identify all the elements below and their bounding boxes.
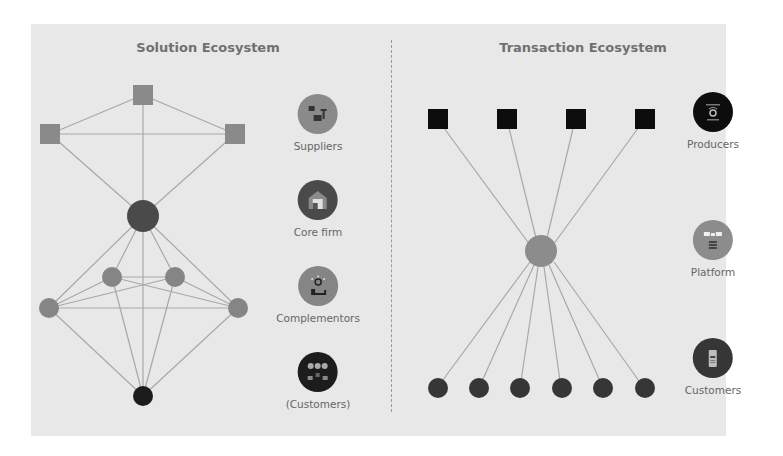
legend-label: Complementors	[276, 312, 360, 324]
legend-producers: Producers	[687, 92, 739, 150]
supplier-node	[225, 124, 245, 144]
suppliers-icon	[298, 94, 338, 134]
legend-label: Customers	[685, 384, 741, 396]
legend-tx-customers: Customers	[685, 338, 741, 396]
ecosystem-network-diagram	[0, 0, 783, 456]
legend-core-firm: Core firm	[294, 180, 343, 238]
complementor-node	[228, 298, 248, 318]
customer-node	[593, 378, 613, 398]
customer-node	[469, 378, 489, 398]
customer-node	[428, 378, 448, 398]
supplier-node	[133, 85, 153, 105]
legend-complementors: Complementors	[276, 266, 360, 324]
legend-label: Suppliers	[294, 140, 343, 152]
legend-platform: Platform	[691, 220, 735, 278]
producers-icon	[693, 92, 733, 132]
customers-icon	[693, 338, 733, 378]
complementors-icon	[298, 266, 338, 306]
producer-node	[428, 109, 448, 129]
legend-label: Platform	[691, 266, 735, 278]
complementor-node	[39, 298, 59, 318]
complementor-node	[102, 267, 122, 287]
producer-node	[635, 109, 655, 129]
legend-suppliers: Suppliers	[294, 94, 343, 152]
platform-node	[525, 235, 557, 267]
legend-label: Producers	[687, 138, 739, 150]
customer-node	[552, 378, 572, 398]
producer-node	[566, 109, 586, 129]
customers-icon	[298, 352, 338, 392]
customer-node	[635, 378, 655, 398]
core-firm-node	[127, 200, 159, 232]
legend-customers: (Customers)	[286, 352, 351, 410]
customer-node	[510, 378, 530, 398]
producer-node	[497, 109, 517, 129]
legend-label: (Customers)	[286, 398, 351, 410]
legend-label: Core firm	[294, 226, 343, 238]
core-firm-icon	[298, 180, 338, 220]
complementor-node	[165, 267, 185, 287]
solution-edges	[49, 95, 238, 396]
customer-node	[133, 386, 153, 406]
supplier-node	[40, 124, 60, 144]
platform-icon	[693, 220, 733, 260]
